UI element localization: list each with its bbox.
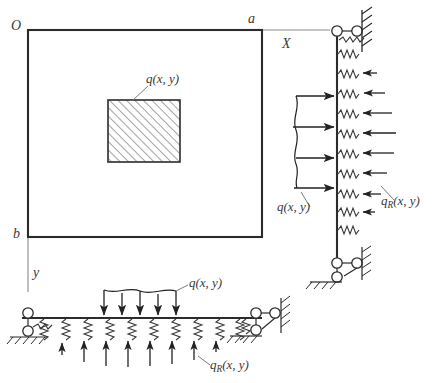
plan-load-leader [132, 86, 148, 101]
plan-view-group [28, 30, 330, 292]
x-axis-label: X [282, 37, 291, 51]
side-view-group [293, 7, 396, 289]
bottom-reaction-load-label: qR(x, y) [210, 358, 249, 374]
plan-load-label: q(x, y) [146, 72, 179, 85]
side-bottom-support [306, 246, 371, 289]
origin-label: O [11, 19, 21, 33]
y-axis-label: y [33, 266, 39, 280]
figure-canvas [0, 0, 440, 383]
bottom-springs [40, 319, 244, 340]
bottom-applied-load-label: q(x, y) [189, 276, 222, 289]
side-applied-load [293, 96, 334, 207]
bottom-reaction-arrows [62, 341, 216, 367]
side-springs [338, 50, 359, 234]
bottom-applied-load [104, 285, 188, 315]
bottom-view-group [7, 285, 290, 367]
side-reaction-arrows [363, 73, 396, 212]
corner-b-label: b [13, 227, 20, 241]
bottom-applied-leader [176, 285, 188, 291]
engineering-figure: O a X b y q(x, y) q(x, y) qR(x, y) q(x, … [0, 0, 440, 383]
bottom-reaction-leader [198, 356, 210, 365]
side-reaction-label-tail: (x, y) [393, 193, 420, 208]
side-applied-load-label: q(x, y) [277, 200, 310, 213]
bottom-right-support [227, 296, 290, 343]
side-top-spring [339, 37, 364, 42]
corner-a-label: a [248, 12, 255, 26]
side-reaction-load-label: qR(x, y) [381, 194, 420, 210]
loaded-patch [108, 100, 180, 162]
bottom-reaction-label-tail: (x, y) [222, 357, 249, 372]
